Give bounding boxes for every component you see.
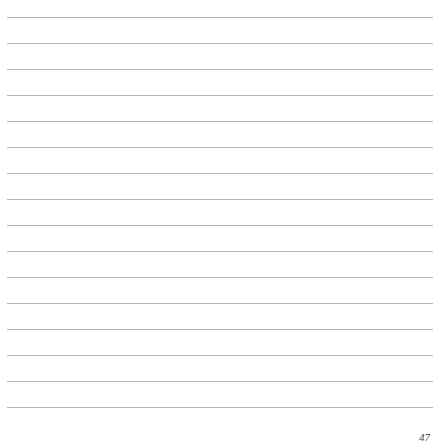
ruled-line bbox=[7, 69, 433, 70]
ruled-line bbox=[7, 329, 433, 330]
ruled-line bbox=[7, 355, 433, 356]
ruled-line bbox=[7, 95, 433, 96]
ruled-line bbox=[7, 251, 433, 252]
ruled-line bbox=[7, 407, 433, 408]
ruled-line bbox=[7, 17, 433, 18]
ruled-line bbox=[7, 173, 433, 174]
ruled-line bbox=[7, 147, 433, 148]
page-number: 47 bbox=[419, 431, 430, 443]
ruled-line bbox=[7, 303, 433, 304]
ruled-line bbox=[7, 199, 433, 200]
ruled-line bbox=[7, 121, 433, 122]
ruled-line bbox=[7, 225, 433, 226]
ruled-line bbox=[7, 381, 433, 382]
ruled-line bbox=[7, 43, 433, 44]
notebook-page: 47 bbox=[0, 0, 438, 445]
ruled-line bbox=[7, 277, 433, 278]
